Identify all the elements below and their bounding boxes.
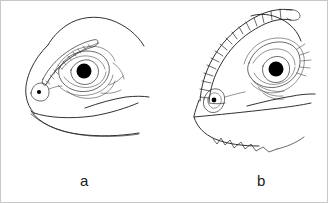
lower-jaw-outline-b (194, 117, 259, 146)
snout-outline-a (26, 45, 48, 113)
loreal-crease-b (225, 92, 245, 97)
lizard-head-b (194, 9, 315, 152)
snout-front-outline-b (194, 100, 199, 116)
crest-base-line-b (209, 103, 225, 104)
jaw-trailing-line-b (277, 137, 304, 149)
figure-panel-container: a b (0, 0, 328, 203)
panel-label-a: a (80, 173, 88, 188)
palpebral-arc-inner-a (67, 81, 115, 98)
head-dome-outline-a (48, 17, 144, 46)
crest-terminal-segment-b (287, 10, 300, 21)
crest-outer-edge-b (200, 9, 292, 101)
palpebral-striations-b (297, 44, 311, 76)
temporal-crease-a (101, 90, 121, 93)
panel-label-b: b (257, 173, 265, 188)
figure-illustration (1, 1, 328, 203)
pupil-a (77, 64, 92, 79)
lower-jaw-outline-a (31, 111, 139, 136)
nostril-dot-b (212, 98, 217, 103)
nostril-dot-a (37, 90, 41, 94)
upper-lip-line-a (34, 103, 138, 118)
pupil-b (269, 62, 284, 77)
gular-fringe-b (213, 138, 277, 152)
lizard-head-a (26, 17, 149, 136)
